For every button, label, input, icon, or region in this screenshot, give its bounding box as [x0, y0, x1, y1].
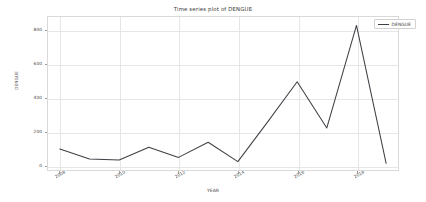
x-axis-tick-mark — [119, 171, 120, 174]
y-axis-tick-label: 400 — [18, 95, 42, 100]
chart-title: Time series plot of DENGUE — [0, 6, 426, 12]
x-axis-tick-mark — [238, 171, 239, 174]
legend-label-dengue: DENGUE — [392, 22, 411, 27]
y-axis-tick-label: 600 — [18, 61, 42, 66]
y-axis-label: DENGUE — [14, 71, 19, 89]
series-line-dengue — [60, 25, 386, 163]
x-axis-tick-mark — [59, 171, 60, 174]
data-series-dengue — [48, 17, 398, 170]
chart-legend: DENGUE — [374, 19, 416, 29]
y-axis-tick-label: 0 — [18, 163, 42, 168]
y-axis-tick-label: 800 — [18, 27, 42, 32]
legend-line-swatch — [378, 24, 389, 25]
x-axis-label: YEAR — [0, 188, 426, 193]
x-axis-tick-mark — [178, 171, 179, 174]
plot-area — [47, 16, 399, 171]
x-axis-tick-mark — [357, 171, 358, 174]
y-axis-tick-label: 200 — [18, 129, 42, 134]
chart-figure: Time series plot of DENGUE DENGUE YEAR 0… — [0, 0, 426, 202]
x-axis-tick-mark — [298, 171, 299, 174]
